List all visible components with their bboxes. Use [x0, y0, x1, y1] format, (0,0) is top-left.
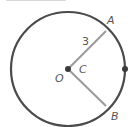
label-angle-c: C	[79, 63, 87, 76]
label-a: A	[106, 14, 115, 27]
circle-point-right	[122, 66, 128, 72]
center-point-o	[65, 66, 71, 72]
label-o: O	[55, 72, 64, 85]
label-radius-length: 3	[82, 35, 89, 48]
radius-ob	[68, 69, 106, 106]
label-b: B	[111, 110, 119, 123]
circle-diagram: A B O C 3	[0, 0, 132, 127]
